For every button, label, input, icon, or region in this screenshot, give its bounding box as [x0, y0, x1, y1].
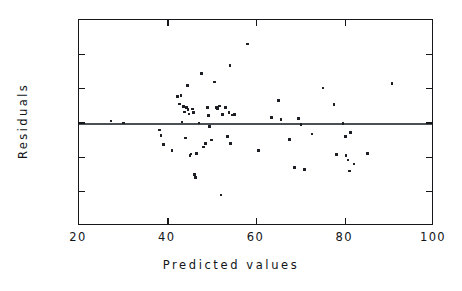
- data-point: [335, 153, 338, 156]
- data-point: [347, 159, 350, 162]
- x-axis-tick-label: 20: [69, 232, 86, 244]
- data-point: [192, 111, 195, 114]
- y-axis-tick: [79, 88, 85, 90]
- data-point: [206, 106, 209, 109]
- y-axis-tick: [79, 191, 85, 193]
- data-point: [122, 122, 125, 125]
- data-point: [200, 72, 203, 75]
- data-point: [178, 103, 181, 106]
- data-point: [195, 152, 198, 155]
- data-point: [208, 125, 211, 128]
- data-point: [348, 170, 351, 173]
- data-point: [280, 118, 283, 121]
- data-point: [344, 135, 347, 138]
- x-axis-tick: [167, 218, 169, 224]
- y-axis-tick: [79, 122, 85, 124]
- y-axis-tick: [79, 157, 85, 159]
- data-point: [160, 134, 163, 137]
- y-axis-tick: [79, 54, 85, 56]
- scatter-plot-figure: Residuals Predicted values 3020100- 10- …: [0, 0, 462, 291]
- data-point: [194, 176, 197, 179]
- x-axis-tick-label: 100: [420, 232, 446, 244]
- data-point: [233, 113, 236, 116]
- data-point: [183, 111, 186, 114]
- x-axis-tick-label: 40: [158, 232, 175, 244]
- x-axis-tick-top: [167, 20, 169, 26]
- data-point: [293, 166, 296, 169]
- data-point: [345, 154, 348, 157]
- y-axis-tick-right: [426, 54, 432, 56]
- data-point: [224, 106, 227, 109]
- x-axis-tick-top: [256, 20, 258, 26]
- data-point: [207, 114, 210, 117]
- data-point: [220, 194, 223, 197]
- x-axis-title: Predicted values: [0, 258, 462, 272]
- data-point: [186, 84, 189, 87]
- x-axis-tick-label: 80: [336, 232, 353, 244]
- zero-reference-line: [79, 123, 432, 125]
- data-point: [226, 135, 229, 138]
- y-axis-tick-right: [426, 122, 432, 124]
- data-point: [187, 108, 190, 111]
- x-axis-tick-label: 60: [247, 232, 264, 244]
- plot-frame: [78, 19, 433, 225]
- data-point: [270, 116, 273, 119]
- data-point: [311, 133, 314, 136]
- data-point: [181, 121, 184, 124]
- data-point: [176, 95, 179, 98]
- data-point: [213, 81, 216, 84]
- plot-area: [79, 20, 432, 224]
- data-point: [171, 149, 174, 152]
- data-point: [342, 122, 345, 125]
- data-point: [188, 113, 191, 116]
- data-point: [277, 99, 280, 102]
- y-axis-tick-right: [426, 88, 432, 90]
- data-point: [300, 123, 303, 126]
- data-point: [353, 163, 356, 166]
- data-point: [184, 137, 187, 140]
- data-point: [257, 149, 260, 152]
- data-point: [218, 105, 221, 108]
- data-point: [229, 64, 232, 67]
- data-point: [216, 107, 219, 110]
- data-point: [221, 113, 224, 116]
- data-point: [229, 142, 232, 145]
- y-axis-tick-right: [426, 191, 432, 193]
- data-point: [333, 103, 336, 106]
- data-point: [391, 82, 394, 85]
- data-point: [366, 152, 369, 155]
- data-point: [322, 87, 325, 90]
- x-axis-tick-top: [345, 20, 347, 26]
- data-point: [297, 117, 300, 120]
- data-point: [110, 120, 113, 123]
- data-point: [246, 43, 249, 46]
- data-point: [204, 142, 207, 145]
- data-point: [158, 129, 161, 132]
- data-point: [162, 143, 165, 146]
- data-point: [191, 108, 194, 111]
- data-point: [210, 139, 213, 142]
- data-point: [228, 111, 231, 114]
- data-point: [180, 94, 183, 97]
- x-axis-tick: [256, 218, 258, 224]
- data-point: [349, 131, 352, 134]
- y-axis-tick-right: [426, 157, 432, 159]
- data-point: [303, 168, 306, 171]
- x-axis-tick: [345, 218, 347, 224]
- data-point: [288, 138, 291, 141]
- y-axis-title: Residuals: [16, 46, 32, 196]
- data-point: [202, 146, 205, 149]
